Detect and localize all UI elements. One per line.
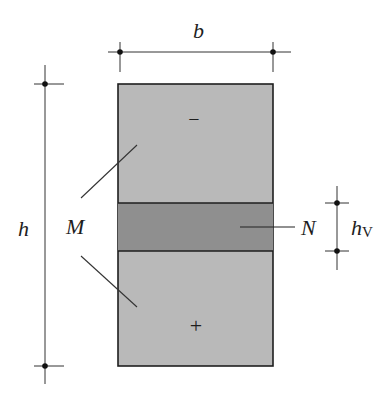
dimension-h	[34, 65, 64, 384]
dimension-tick-icon	[334, 200, 340, 206]
dimension-tick-icon	[42, 81, 48, 87]
label-h: h	[18, 216, 29, 241]
dimension-hv	[325, 186, 349, 270]
section-diagram: b h M − + N hV	[0, 0, 391, 415]
dimension-tick-icon	[334, 248, 340, 254]
label-b: b	[193, 18, 204, 43]
label-moment: M	[65, 214, 86, 239]
dimension-b	[108, 42, 291, 72]
label-band-height: hV	[351, 215, 373, 240]
label-normal-force: N	[300, 215, 317, 240]
dimension-tick-icon	[117, 49, 123, 55]
dimension-tick-icon	[270, 49, 276, 55]
compression-sign: −	[188, 108, 199, 130]
dimension-tick-icon	[42, 363, 48, 369]
tension-sign: +	[190, 313, 202, 338]
